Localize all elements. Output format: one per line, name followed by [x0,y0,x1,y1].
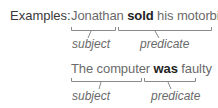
subject-label: subject [72,89,110,103]
predicate-label: predicate [140,37,189,51]
subject-label: subject [72,37,110,51]
predicate-label: predicate [151,89,200,103]
predicate-bracket [119,27,212,31]
predicate-bracket [145,78,196,82]
predicate-pointer [168,82,171,89]
subject-bracket [72,27,116,31]
subject-pointer [99,82,101,89]
subject-bracket [72,78,142,82]
